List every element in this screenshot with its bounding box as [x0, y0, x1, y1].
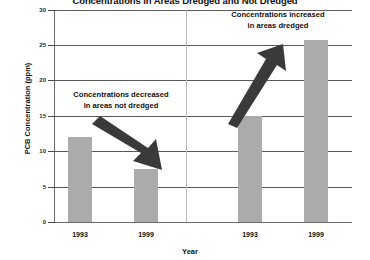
bar-1993-dredged — [238, 116, 262, 222]
x-axis-line — [54, 222, 352, 223]
y-tick-0 — [48, 222, 55, 223]
y-axis-label-5: 5 — [26, 184, 46, 190]
annotation-increased-line1: Concentrations increased — [196, 10, 360, 21]
y-tick-10 — [48, 151, 55, 152]
x-axis-title: Year — [160, 247, 220, 256]
x-axis-label-4: 1999 — [293, 231, 339, 238]
x-axis-label-3: 1993 — [227, 231, 273, 238]
x-axis-label-1: 1993 — [57, 231, 103, 238]
annotation-decreased-line2: in areas not dredged — [52, 101, 190, 112]
y-tick-25 — [48, 45, 55, 46]
x-axis-label-2: 1999 — [123, 231, 169, 238]
y-tick-5 — [48, 187, 55, 188]
annotation-decreased: Concentrations decreased in areas not dr… — [52, 90, 190, 111]
bar-1999-not-dredged — [134, 169, 158, 222]
bar-1993-not-dredged — [68, 137, 92, 222]
annotation-decreased-line1: Concentrations decreased — [52, 90, 190, 101]
y-tick-30 — [48, 10, 55, 11]
arrow-up-right-icon — [228, 44, 292, 128]
y-axis-label-0: 0 — [26, 219, 46, 225]
bar-1999-dredged — [304, 40, 328, 222]
annotation-increased: Concentrations increased in areas dredge… — [196, 10, 360, 31]
y-tick-15 — [48, 116, 55, 117]
arrow-down-right-icon — [92, 122, 170, 172]
chart-title: Concentrations in Areas Dredged and Not … — [0, 0, 370, 6]
y-axis-title: PCB Concentration (ppm) — [23, 34, 32, 184]
y-tick-20 — [48, 80, 55, 81]
y-axis-label-30: 30 — [26, 7, 46, 13]
group-divider — [186, 10, 187, 222]
annotation-increased-line2: in areas dredged — [196, 21, 360, 32]
bar-chart: Concentrations in Areas Dredged and Not … — [0, 0, 370, 260]
